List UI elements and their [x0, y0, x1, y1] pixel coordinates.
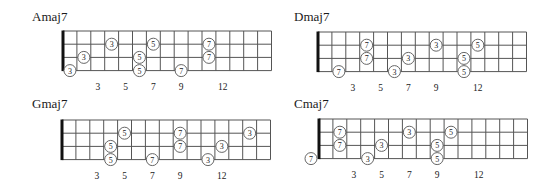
note-dot: 7 — [305, 153, 317, 165]
interval-label: 5 — [435, 141, 439, 150]
note-dot: 5 — [431, 139, 443, 151]
fret-number-label: 7 — [407, 170, 412, 180]
note-dot: 5 — [445, 126, 457, 138]
note-dot: 7 — [334, 139, 346, 151]
fret-number-label: 5 — [379, 170, 384, 180]
interval-label: 5 — [449, 128, 453, 137]
note-dot: 3 — [376, 139, 388, 151]
interval-label: 7 — [309, 155, 313, 164]
fret-number-label: 9 — [435, 170, 440, 180]
fret-number-label: 12 — [474, 170, 484, 180]
interval-label: 3 — [366, 155, 370, 164]
fretboard: 357912777333555 — [0, 0, 552, 187]
fret-number-label: 3 — [351, 170, 356, 180]
note-dot: 3 — [362, 153, 374, 165]
interval-label: 7 — [338, 141, 342, 150]
note-dot: 3 — [403, 126, 415, 138]
note-dot: 5 — [431, 153, 443, 165]
interval-label: 3 — [407, 128, 411, 137]
interval-label: 5 — [435, 155, 439, 164]
interval-label: 7 — [338, 128, 342, 137]
note-dot: 7 — [334, 126, 346, 138]
interval-label: 3 — [380, 141, 384, 150]
